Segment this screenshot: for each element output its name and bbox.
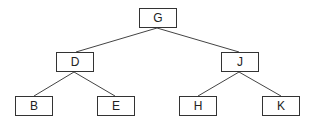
node-h: H — [179, 96, 217, 116]
edge-d-b — [34, 72, 74, 96]
node-k: K — [262, 96, 300, 116]
node-j: J — [221, 52, 259, 72]
edge-g-j — [157, 28, 239, 52]
edge-j-h — [198, 72, 239, 96]
node-g: G — [139, 8, 177, 28]
node-e: E — [97, 96, 135, 116]
edge-g-d — [76, 28, 157, 52]
edge-d-e — [74, 72, 115, 96]
edge-j-k — [239, 72, 281, 96]
node-d: D — [56, 52, 94, 72]
node-b: B — [15, 96, 53, 116]
